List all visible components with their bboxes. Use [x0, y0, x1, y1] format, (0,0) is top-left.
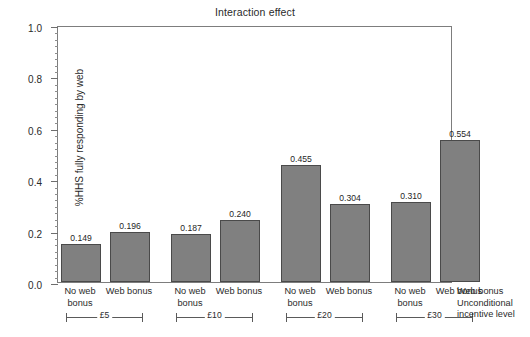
y-tick-minor — [55, 104, 59, 105]
y-tick-minor — [55, 188, 59, 189]
group-bracket: £5 — [66, 312, 143, 323]
y-tick-minor — [55, 117, 59, 118]
y-tick-label: 0.8 — [28, 74, 42, 85]
y-tick-major: 0.4 — [51, 181, 58, 182]
y-tick-minor — [55, 33, 59, 34]
y-tick-minor — [55, 85, 59, 86]
y-axis-title: %HHS fully responding by web — [74, 13, 85, 263]
y-tick-minor — [55, 213, 59, 214]
y-tick-minor — [55, 72, 59, 73]
bracket-cap-right — [362, 313, 363, 322]
y-tick-minor — [55, 111, 59, 112]
axis-key-line-2: Unconditional — [457, 298, 515, 310]
x-category-label: No web bonus — [274, 286, 326, 309]
y-tick-minor — [55, 162, 59, 163]
y-tick-minor — [55, 271, 59, 272]
bar-value-label: 0.149 — [70, 233, 92, 243]
x-category-label: No web bonus — [164, 286, 216, 309]
y-tick-minor — [55, 239, 59, 240]
y-tick-minor — [55, 66, 59, 67]
plot-area: %HHS fully responding by web 0.00.20.40.… — [57, 26, 452, 283]
x-category-label: Web bonus — [323, 286, 375, 298]
y-tick-minor — [55, 220, 59, 221]
group-amount-label: £30 — [424, 310, 444, 321]
bar-value-label: 0.187 — [180, 223, 202, 233]
y-tick-minor — [55, 168, 59, 169]
bar — [281, 165, 321, 282]
group-amount-label: £5 — [97, 310, 113, 321]
y-tick-minor — [55, 265, 59, 266]
y-tick-minor — [55, 200, 59, 201]
y-tick-major: 0.2 — [51, 233, 58, 234]
x-category-label: No web bonus — [54, 286, 106, 309]
bracket-cap-right — [142, 313, 143, 322]
group-bracket: £20 — [286, 312, 363, 323]
y-tick-minor — [55, 46, 59, 47]
y-tick-label: 0.0 — [28, 280, 42, 291]
y-tick-minor — [55, 252, 59, 253]
bar — [171, 234, 211, 282]
group-bracket: £10 — [176, 312, 253, 323]
bar-value-label: 0.455 — [290, 154, 312, 164]
y-tick-minor — [55, 123, 59, 124]
y-tick-label: 0.6 — [28, 125, 42, 136]
x-category-label: Web bonus — [103, 286, 155, 298]
y-tick-major: 0.8 — [51, 78, 58, 79]
group-amount-label: £20 — [314, 310, 334, 321]
y-tick-minor — [55, 207, 59, 208]
axis-key: Web bonus Unconditional incentive level — [457, 286, 515, 321]
bar-value-label: 0.240 — [229, 209, 251, 219]
x-category-label: No web bonus — [384, 286, 436, 309]
y-tick-major: 1.0 — [51, 27, 58, 28]
y-tick-major: 0.0 — [51, 284, 58, 285]
bar — [110, 232, 150, 282]
y-tick-minor — [55, 59, 59, 60]
bar-value-label: 0.554 — [449, 129, 471, 139]
y-tick-minor — [55, 278, 59, 279]
bar-value-label: 0.304 — [339, 193, 361, 203]
bar — [61, 244, 101, 282]
x-category-label: Web bonus — [213, 286, 265, 298]
y-tick-major: 0.6 — [51, 130, 58, 131]
bar-value-label: 0.310 — [400, 191, 422, 201]
y-tick-minor — [55, 53, 59, 54]
group-amount-label: £10 — [204, 310, 224, 321]
bar — [220, 220, 260, 282]
bar — [330, 204, 370, 282]
y-tick-minor — [55, 149, 59, 150]
y-tick-label: 0.2 — [28, 228, 42, 239]
y-tick-minor — [55, 245, 59, 246]
y-tick-label: 0.4 — [28, 177, 42, 188]
bracket-cap-right — [252, 313, 253, 322]
y-tick-minor — [55, 258, 59, 259]
chart-figure: Interaction effect %HHS fully responding… — [0, 0, 530, 337]
y-tick-minor — [55, 136, 59, 137]
y-tick-label: 1.0 — [28, 23, 42, 34]
y-tick-minor — [55, 194, 59, 195]
y-tick-minor — [55, 40, 59, 41]
axis-key-line-3: incentive level — [457, 309, 515, 321]
y-tick-minor — [55, 98, 59, 99]
axis-key-line-1: Web bonus — [457, 286, 515, 298]
y-tick-minor — [55, 156, 59, 157]
y-tick-minor — [55, 143, 59, 144]
bar — [440, 140, 480, 282]
y-tick-minor — [55, 175, 59, 176]
chart-title: Interaction effect — [57, 6, 453, 18]
bar-value-label: 0.196 — [119, 221, 141, 231]
bar — [391, 202, 431, 282]
y-tick-minor — [55, 226, 59, 227]
y-tick-minor — [55, 91, 59, 92]
